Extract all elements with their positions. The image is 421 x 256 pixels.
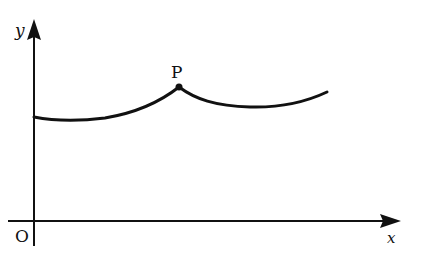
x-axis-label: x: [387, 229, 396, 247]
x-axis-arrowhead: [380, 214, 401, 228]
point-p-label: P: [171, 62, 182, 82]
y-axis-arrowhead: [27, 19, 41, 40]
point-p-marker: [176, 84, 183, 91]
origin-label: O: [15, 226, 29, 246]
function-graph-diagram: P y x O: [0, 0, 421, 256]
function-curve: [34, 87, 327, 120]
y-axis-label: y: [14, 20, 25, 40]
